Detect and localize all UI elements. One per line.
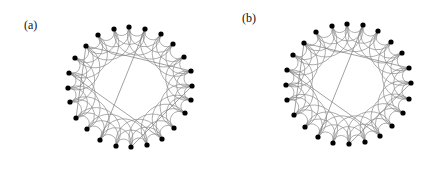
graph-node [406,65,411,70]
shortcut-edge [287,70,380,136]
graph-node [283,82,288,87]
graph-node [284,67,289,72]
panel-b-label: (b) [242,11,256,25]
graph-node [330,140,335,145]
graph-node [97,137,102,142]
graph-node [95,32,100,37]
graph-node [406,96,411,101]
graph-node [291,112,296,117]
panel-a: (a) [24,18,195,150]
graph-node [84,126,89,131]
lattice-edge [159,44,192,88]
graph-node [188,97,193,102]
graph-node [315,134,320,139]
graph-node [290,52,295,57]
graph-node [329,23,334,28]
graph-node [83,43,88,48]
graph-node [65,85,70,90]
graph-node [389,123,394,128]
graph-node [171,125,176,130]
shortcut-edge [69,73,162,139]
graph-node [188,68,193,73]
graph-node [111,26,116,31]
graph-node [375,28,380,33]
graph-node [128,144,133,149]
panel-b: (b) [242,11,414,147]
graph-node [313,29,318,34]
graph-node [182,110,187,115]
lattice-edge [384,42,409,71]
graph-node [302,124,307,129]
graph-node [126,24,131,29]
graph-node [72,55,77,60]
graph-node [142,26,147,31]
graph-node [400,110,405,115]
ring-lattice-figure: (a) (b) [0,0,447,171]
graph-node [73,115,78,120]
graph-node [189,83,194,88]
graph-node [113,143,118,148]
graph-node [408,80,413,85]
graph-node [170,41,175,46]
panel-a-label: (a) [24,18,37,32]
graph-node [144,142,149,147]
graph-node [301,40,306,45]
graph-node [159,136,164,141]
graph-node [360,22,365,27]
shortcut-edge [318,25,363,137]
graph-node [158,31,163,36]
shortcut-edge [294,43,304,115]
graph-node [362,139,367,144]
graph-node [399,50,404,55]
graph-node [181,54,186,59]
graph-node [66,70,71,75]
shortcut-edge [304,43,409,68]
graph-node [388,39,393,44]
graph-node [284,97,289,102]
graph-node [344,21,349,26]
graph-node [377,133,382,138]
graph-node [346,141,351,146]
graph-node [67,99,72,104]
lattice-edge [378,42,411,85]
